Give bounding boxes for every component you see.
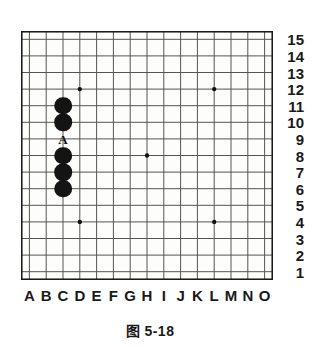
column-label-N: N	[239, 288, 257, 303]
go-stone-black[interactable]	[54, 163, 72, 181]
row-label-6: 6	[278, 181, 304, 196]
column-label-C: C	[54, 288, 72, 303]
row-number-axis: 151413121110987654321	[278, 31, 314, 280]
row-label-15: 15	[278, 32, 304, 47]
row-label-7: 7	[278, 165, 304, 180]
column-label-E: E	[88, 288, 106, 303]
column-label-K: K	[188, 288, 206, 303]
row-label-3: 3	[278, 231, 304, 246]
column-letter-axis: ABCDEFGHIJKLMNO	[21, 288, 273, 308]
row-label-11: 11	[278, 98, 304, 113]
column-label-D: D	[71, 288, 89, 303]
column-label-G: G	[121, 288, 139, 303]
row-label-8: 8	[278, 148, 304, 163]
star-point	[145, 153, 149, 157]
star-point	[78, 87, 82, 91]
row-label-10: 10	[278, 115, 304, 130]
column-label-L: L	[205, 288, 223, 303]
column-label-I: I	[155, 288, 173, 303]
row-label-1: 1	[278, 264, 304, 279]
column-label-B: B	[37, 288, 55, 303]
column-label-J: J	[172, 288, 190, 303]
star-point	[78, 220, 82, 224]
row-label-13: 13	[278, 65, 304, 80]
column-label-F: F	[104, 288, 122, 303]
row-label-5: 5	[278, 198, 304, 213]
star-point	[212, 87, 216, 91]
star-point	[212, 220, 216, 224]
column-label-H: H	[138, 288, 156, 303]
go-stone-black[interactable]	[54, 97, 72, 115]
go-stone-black[interactable]	[54, 114, 72, 132]
column-label-O: O	[256, 288, 274, 303]
column-label-A: A	[20, 288, 38, 303]
board-point-label-a[interactable]: A	[58, 132, 67, 145]
go-board[interactable]: A	[21, 31, 273, 280]
figure-caption: 图 5-18	[0, 320, 300, 340]
row-label-14: 14	[278, 48, 304, 63]
row-label-2: 2	[278, 248, 304, 263]
row-label-9: 9	[278, 131, 304, 146]
go-stone-black[interactable]	[54, 180, 72, 198]
go-board-figure: A 151413121110987654321 ABCDEFGHIJKLMNO …	[0, 0, 317, 347]
row-label-12: 12	[278, 82, 304, 97]
row-label-4: 4	[278, 214, 304, 229]
column-label-M: M	[222, 288, 240, 303]
go-stone-black[interactable]	[54, 147, 72, 165]
